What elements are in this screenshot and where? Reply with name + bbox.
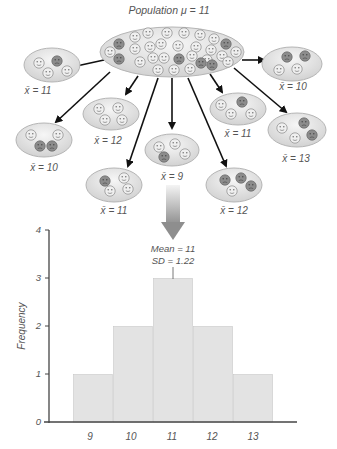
bar-10 [113, 326, 153, 422]
sampling-distribution-diagram: Population μ = 11 x̄ = 11 [0, 0, 337, 449]
sample-mean-label: x̄ = 12 [219, 205, 248, 216]
sample-mean-label: x̄ = 11 [100, 205, 128, 216]
sample-mean-label: x̄ = 9 [160, 171, 183, 182]
population-ellipse [100, 27, 244, 77]
svg-text:10: 10 [125, 431, 137, 442]
sample-s8: x̄ = 11 [86, 168, 142, 216]
population-title: Population μ = 11 [128, 4, 209, 16]
arrow-to-s2 [126, 76, 138, 94]
sample-mean-label: x̄ = 12 [93, 135, 122, 146]
gray-down-arrow [161, 185, 185, 240]
mean-annotation: Mean = 11 [151, 243, 195, 254]
svg-text:12: 12 [206, 431, 218, 442]
sample-s7: x̄ = 13 [268, 113, 326, 164]
svg-text:1: 1 [36, 368, 41, 379]
sample-s3: x̄ = 10 [16, 123, 72, 173]
sample-s9: x̄ = 12 [206, 168, 262, 216]
sample-mean-label: x̄ = 10 [278, 81, 307, 92]
bar-13 [233, 374, 273, 422]
svg-text:4: 4 [36, 224, 41, 235]
histogram-chart: 4 3 2 1 0 Frequency 9 10 11 12 13 Mean =… [16, 224, 297, 442]
sd-annotation: SD = 1.22 [152, 255, 195, 266]
sample-mean-label: x̄ = 13 [281, 153, 310, 164]
sample-s1: x̄ = 11 [24, 48, 80, 96]
svg-text:3: 3 [36, 272, 42, 283]
bar-11 [153, 278, 193, 422]
svg-text:0: 0 [36, 416, 42, 427]
sample-mean-label: x̄ = 10 [29, 162, 58, 173]
bar-9 [73, 374, 113, 422]
svg-text:2: 2 [35, 320, 42, 331]
bar-12 [193, 326, 233, 422]
svg-text:13: 13 [247, 431, 259, 442]
histogram-bars [73, 278, 273, 422]
sample-s4: x̄ = 9 [145, 134, 199, 182]
sample-s6: x̄ = 10 [262, 47, 322, 92]
y-axis-label: Frequency [16, 301, 27, 349]
sample-s2: x̄ = 12 [83, 98, 139, 146]
y-tick-labels: 4 3 2 1 0 [35, 224, 42, 427]
svg-text:9: 9 [87, 431, 93, 442]
arrow-to-s5 [210, 74, 222, 92]
sample-mean-label: x̄ = 11 [224, 128, 252, 139]
sample-s5: x̄ = 11 [210, 93, 266, 139]
x-tick-labels: 9 10 11 12 13 [87, 431, 259, 442]
svg-text:11: 11 [167, 431, 177, 442]
sample-mean-label: x̄ = 11 [24, 85, 52, 96]
